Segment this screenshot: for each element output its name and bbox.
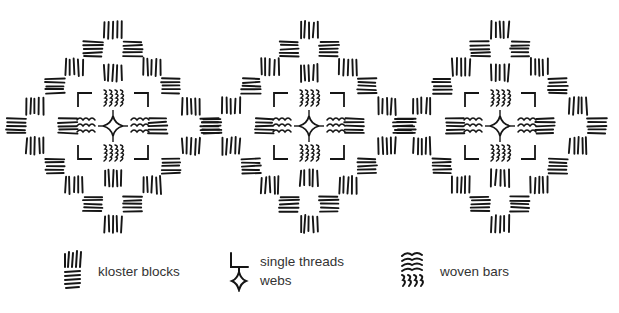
single-thread-bracket — [521, 93, 535, 107]
woven-bar — [300, 90, 320, 106]
kloster-block — [143, 176, 161, 194]
legend-item-threads-webs: single threads webs — [228, 250, 344, 292]
legend-label-single-threads: single threads — [260, 252, 344, 271]
single-thread-bracket — [274, 93, 288, 107]
center-web-icon — [299, 116, 319, 136]
inner-kloster-block — [105, 170, 121, 187]
kloster-block — [279, 197, 299, 212]
single-thread-bracket — [330, 145, 344, 159]
woven-bar — [77, 118, 95, 132]
kloster-block — [378, 97, 395, 115]
legend-item-kloster-blocks: kloster blocks — [62, 250, 180, 292]
kloster-block — [548, 78, 568, 93]
diamond-motif-3 — [393, 21, 607, 233]
kloster-block — [182, 98, 200, 115]
inner-kloster-block — [104, 65, 122, 82]
woven-bars-icon — [398, 250, 426, 292]
kloster-block — [587, 118, 607, 133]
kloster-block — [143, 58, 160, 76]
inner-kloster-block — [344, 118, 364, 133]
kloster-block — [65, 58, 83, 75]
kloster-block — [378, 137, 395, 154]
kloster-blocks-icon — [62, 250, 84, 292]
kloster-block — [26, 98, 43, 115]
legend-item-woven-bars: woven bars — [398, 250, 509, 292]
inner-kloster-block — [301, 64, 318, 82]
single-thread-bracket — [330, 93, 344, 107]
woven-bar — [104, 145, 124, 161]
inner-kloster-block — [491, 169, 509, 187]
center-web-icon — [490, 116, 510, 136]
inner-kloster-block — [255, 118, 274, 133]
legend-label-woven-bars: woven bars — [440, 262, 509, 281]
kloster-block — [357, 78, 376, 93]
single-thread-bracket — [465, 145, 479, 159]
single-threads-webs-icon — [228, 250, 252, 292]
kloster-block — [280, 41, 299, 56]
kloster-block — [26, 137, 43, 154]
single-thread-bracket — [78, 93, 92, 107]
kloster-block — [202, 119, 221, 133]
kloster-block — [393, 119, 413, 133]
kloster-block — [222, 137, 240, 155]
kloster-block — [531, 58, 548, 76]
single-thread-bracket — [521, 145, 535, 159]
kloster-block — [123, 196, 142, 211]
kloster-block — [242, 158, 261, 173]
single-thread-bracket — [274, 145, 288, 159]
kloster-block — [182, 138, 200, 155]
kloster-block — [569, 137, 586, 154]
woven-bar — [491, 145, 511, 161]
woven-bar — [104, 90, 124, 106]
kloster-block — [301, 21, 318, 39]
kloster-block — [357, 158, 376, 173]
kloster-block — [83, 197, 102, 211]
kloster-block — [123, 42, 142, 57]
single-thread-bracket — [78, 145, 92, 159]
legend-label-webs: webs — [260, 271, 344, 290]
kloster-block — [413, 97, 430, 114]
inner-kloster-block — [148, 118, 167, 133]
kloster-block — [452, 58, 470, 76]
kloster-block — [261, 58, 279, 75]
kloster-block — [104, 21, 122, 39]
woven-bar — [273, 118, 291, 132]
kloster-block — [470, 41, 490, 56]
woven-bar — [518, 118, 536, 132]
kloster-block — [104, 216, 122, 233]
inner-kloster-block — [58, 118, 78, 133]
legend-label-kloster-blocks: kloster blocks — [98, 262, 180, 281]
kloster-block — [162, 159, 181, 174]
diamond-motif-1 — [6, 21, 219, 233]
woven-bar — [491, 90, 511, 106]
kloster-block — [6, 118, 26, 133]
kloster-block — [222, 97, 240, 114]
inner-kloster-block — [446, 118, 465, 133]
kloster-block — [510, 42, 529, 57]
kloster-block — [45, 78, 65, 93]
kloster-block — [319, 42, 339, 56]
single-thread-bracket — [465, 93, 479, 107]
kloster-block — [339, 59, 357, 76]
woven-bar — [327, 118, 345, 132]
kloster-block — [161, 78, 180, 93]
inner-kloster-block — [535, 118, 554, 133]
center-web-icon — [103, 116, 123, 136]
inner-kloster-block — [300, 169, 318, 186]
kloster-block — [510, 196, 529, 211]
single-thread-bracket — [134, 145, 148, 159]
woven-bar — [131, 118, 149, 132]
kloster-block — [339, 176, 356, 194]
kloster-block — [301, 215, 318, 233]
kloster-block — [65, 176, 82, 194]
diamond-motif-2 — [202, 21, 416, 233]
kloster-block — [569, 97, 587, 115]
kloster-block — [261, 176, 279, 194]
kloster-block — [530, 177, 547, 194]
kloster-block — [432, 79, 452, 94]
woven-bar — [300, 145, 320, 161]
kloster-block — [491, 215, 509, 233]
kloster-block — [241, 78, 260, 93]
kloster-block — [83, 41, 103, 56]
embroidery-pattern-diagram — [0, 0, 619, 245]
